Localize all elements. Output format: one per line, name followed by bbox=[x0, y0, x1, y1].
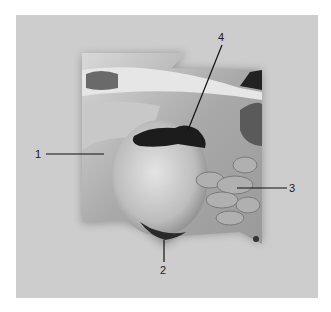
callout-label-2: 2 bbox=[160, 265, 166, 276]
callout-label-1: 1 bbox=[35, 149, 41, 160]
callout-label-3: 3 bbox=[289, 183, 295, 194]
callout-label-4: 4 bbox=[218, 32, 224, 43]
